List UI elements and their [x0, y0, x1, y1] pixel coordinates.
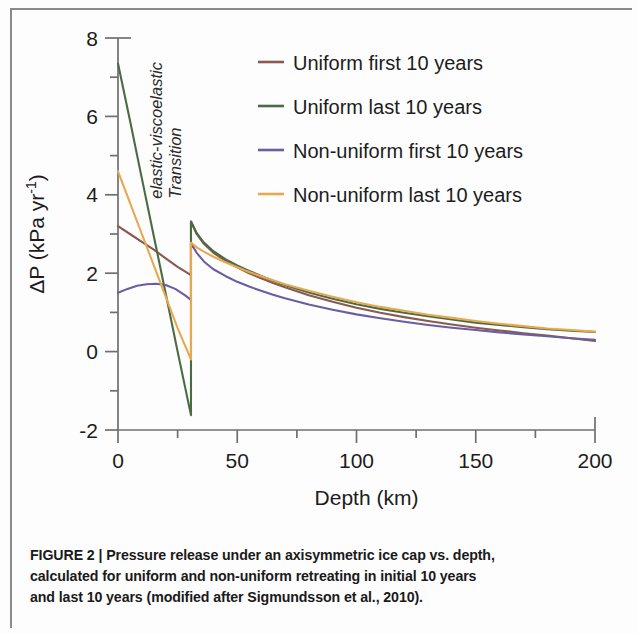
x-tick-label: 50	[226, 449, 249, 472]
x-tick-label: 200	[577, 449, 612, 472]
x-tick-label: 100	[339, 449, 374, 472]
figure-container: -202468050100150200Depth (km)ΔP (kPa yr-…	[0, 0, 637, 634]
y-tick-label: 8	[86, 27, 98, 50]
caption-line-3: and last 10 years (modified after Sigmun…	[30, 587, 615, 608]
pressure-depth-line-chart: -202468050100150200Depth (km)ΔP (kPa yr-…	[0, 0, 637, 515]
caption-line-1: FIGURE 2 | Pressure release under an axi…	[30, 545, 615, 566]
x-axis-title: Depth (km)	[315, 486, 419, 509]
transition-annotation: Transitionelastic-viscoelastic	[147, 61, 184, 198]
figure-caption: FIGURE 2 | Pressure release under an axi…	[30, 545, 615, 608]
y-tick-label: 2	[86, 262, 98, 285]
y-tick-label: 0	[86, 340, 98, 363]
x-tick-label: 0	[112, 449, 124, 472]
y-axis-title-group: ΔP (kPa yr-1)	[23, 174, 48, 293]
legend-label: Uniform last 10 years	[293, 96, 482, 118]
legend-label: Uniform first 10 years	[293, 52, 483, 74]
legend-label: Non-uniform last 10 years	[293, 184, 522, 206]
legend-label: Non-uniform first 10 years	[293, 140, 523, 162]
chart-legend: Uniform first 10 yearsUniform last 10 ye…	[258, 52, 523, 206]
y-tick-label: 6	[86, 105, 98, 128]
chart-plot-area: -202468050100150200Depth (km)ΔP (kPa yr-…	[0, 0, 637, 515]
x-tick-label: 150	[458, 449, 493, 472]
transition-annotation-line: Transition	[166, 127, 184, 198]
caption-line-2: calculated for uniform and non-uniform r…	[30, 566, 615, 587]
y-axis-title: ΔP (kPa yr-1)	[23, 174, 48, 293]
y-tick-label: -2	[79, 419, 98, 442]
series-line	[118, 221, 595, 341]
y-tick-label: 4	[86, 183, 98, 206]
transition-annotation-line: elastic-viscoelastic	[147, 61, 165, 198]
